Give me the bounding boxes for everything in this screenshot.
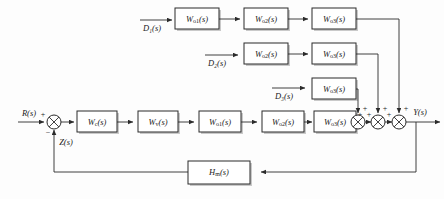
forward-block-wv-arg: (s) (159, 116, 168, 126)
row1-block-1-arg: (s) (199, 13, 208, 23)
sum3-left-sign: + (387, 110, 392, 119)
disturbance-2-label: D₂(s) (207, 58, 226, 68)
output-label: Y(s) (413, 107, 427, 117)
summing-junction-3[interactable] (392, 115, 406, 129)
wire-hm-to-input-sum (54, 130, 188, 172)
row3-block-1-arg: (s) (336, 83, 345, 93)
forward-path: R(s) + − Wc(s) Wv(s) (18, 108, 358, 137)
output-summing-junctions: + + + + + + Y( (351, 104, 440, 129)
row1-block-3-arg: (s) (336, 13, 345, 23)
feedback-block-hm-arg: (s) (220, 166, 229, 176)
forward-block-wc-arg: (s) (97, 116, 106, 126)
disturbance-row-3: D₃(s) Wo3(s) (272, 78, 358, 113)
sum3-top-sign: + (404, 104, 409, 113)
disturbance-1-label: D₁(s) (142, 23, 161, 33)
forward-block-wo1-arg: (s) (222, 116, 231, 126)
row2-block-1-arg: (s) (268, 48, 277, 58)
forward-block-wv-label: Wv(s) (148, 116, 167, 127)
summing-junction-2[interactable] (371, 115, 385, 129)
reference-label: R(s) (21, 108, 36, 118)
sum2-left-sign: + (367, 110, 372, 119)
summing-junction-1[interactable] (351, 115, 365, 129)
row1-block-2-arg: (s) (268, 13, 277, 23)
forward-block-wc-label: Wc(s) (88, 116, 107, 127)
forward-block-wo3-arg: (s) (337, 116, 346, 126)
disturbance-3-label: D₃(s) (274, 91, 293, 101)
feedback-signal-label: Z(s) (59, 137, 73, 147)
forward-block-wo2-arg: (s) (285, 116, 294, 126)
wire-row1-to-sum3 (356, 19, 399, 113)
reference-sign: + (41, 110, 46, 119)
feedback-sign: − (46, 128, 51, 137)
block-diagram-svg: D₁(s) Wo1(s) Wo2(s) Wo3(s) D₂(s) (0, 0, 444, 199)
block-diagram-canvas: D₁(s) Wo1(s) Wo2(s) Wo3(s) D₂(s) (0, 0, 444, 199)
row2-block-2-arg: (s) (336, 48, 345, 58)
